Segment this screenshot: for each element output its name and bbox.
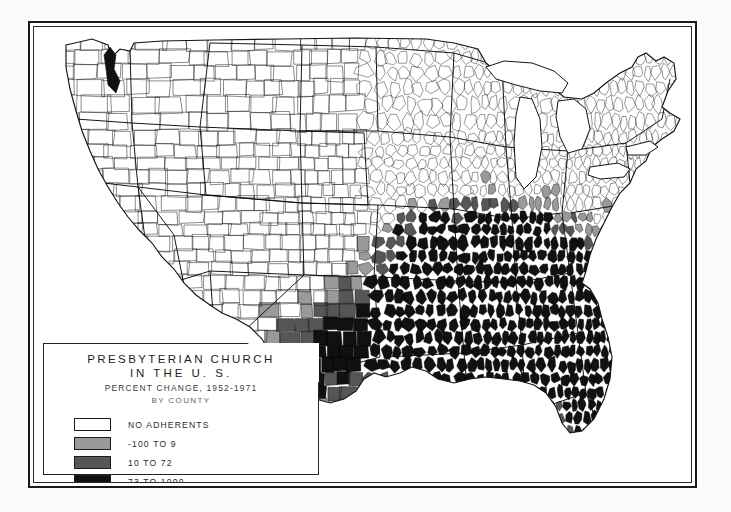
county-boundary	[645, 439, 651, 451]
county-boundary	[603, 478, 609, 482]
county-area	[338, 318, 354, 331]
county-boundary	[685, 426, 691, 437]
county-boundary	[674, 346, 682, 357]
county-area	[558, 466, 565, 480]
county-area	[443, 467, 454, 477]
county-boundary	[47, 223, 70, 235]
county-area	[558, 437, 564, 451]
legend-subtitle: PERCENT CHANGE, 1952-1971	[43, 382, 319, 395]
county-area	[343, 332, 356, 346]
county-area	[542, 451, 552, 465]
county-area	[181, 304, 201, 318]
county-boundary	[663, 412, 671, 425]
county-area	[529, 265, 540, 276]
county-area	[654, 358, 661, 372]
county-area	[471, 439, 480, 453]
county-area	[131, 113, 161, 130]
county-area	[666, 374, 673, 386]
county-area	[105, 34, 135, 49]
county-area	[406, 453, 417, 465]
county-area	[662, 357, 671, 373]
county-area	[657, 185, 665, 200]
county-area	[34, 97, 55, 115]
county-boundary	[413, 440, 426, 451]
county-area	[619, 261, 626, 273]
county-area	[650, 320, 660, 333]
county-area	[177, 318, 201, 332]
county-area	[496, 303, 505, 319]
county-boundary	[599, 276, 607, 289]
county-boundary	[432, 411, 441, 427]
county-boundary	[670, 411, 676, 425]
county-area	[585, 96, 596, 114]
county-area	[642, 227, 651, 237]
county-area	[518, 440, 526, 455]
county-area	[622, 37, 633, 49]
county-area	[528, 414, 539, 426]
county-area	[519, 289, 531, 305]
county-area	[448, 400, 458, 412]
county-boundary	[636, 212, 645, 223]
county-area	[584, 36, 595, 48]
county-area	[526, 318, 533, 328]
county-boundary	[34, 37, 60, 52]
county-area	[634, 292, 643, 306]
county-boundary	[542, 427, 550, 438]
county-area	[374, 412, 386, 426]
county-boundary	[650, 171, 659, 183]
county-area	[638, 233, 647, 248]
county-boundary	[690, 159, 691, 170]
county-boundary	[617, 303, 626, 317]
county-boundary	[588, 477, 595, 482]
county-area	[89, 305, 113, 319]
county-area	[678, 262, 686, 274]
county-boundary	[471, 439, 480, 453]
county-area	[315, 249, 330, 262]
county-boundary	[126, 236, 148, 251]
county-area	[395, 335, 405, 347]
county-area	[135, 130, 158, 145]
county-boundary	[335, 478, 352, 482]
county-boundary	[656, 464, 665, 476]
county-area	[505, 304, 514, 316]
county-boundary	[685, 263, 691, 276]
county-boundary	[690, 34, 691, 51]
county-boundary	[631, 384, 639, 399]
county-boundary	[117, 276, 144, 290]
county-boundary	[634, 39, 643, 52]
county-area	[488, 184, 495, 194]
county-area	[443, 331, 453, 345]
county-boundary	[34, 27, 48, 35]
county-area	[417, 452, 426, 464]
county-boundary	[403, 425, 411, 437]
county-area	[656, 304, 665, 317]
county-area	[403, 425, 411, 437]
county-area	[407, 27, 422, 39]
county-area	[661, 290, 668, 306]
county-area	[682, 347, 689, 359]
county-area	[315, 158, 328, 170]
county-boundary	[654, 199, 662, 213]
county-area	[93, 212, 116, 224]
county-boundary	[330, 424, 343, 437]
county-area	[434, 424, 442, 438]
county-area	[196, 249, 214, 262]
county-area	[202, 195, 220, 210]
county-area	[650, 275, 656, 288]
county-area	[520, 466, 530, 479]
county-boundary	[576, 63, 585, 78]
county-area	[623, 252, 633, 263]
county-boundary	[686, 411, 691, 423]
county-area	[647, 400, 657, 412]
county-area	[570, 331, 576, 344]
county-area	[485, 358, 492, 374]
county-boundary	[665, 346, 672, 360]
county-boundary	[624, 329, 632, 344]
county-boundary	[651, 222, 661, 236]
county-area	[532, 27, 539, 33]
county-area	[601, 235, 608, 250]
county-boundary	[606, 37, 615, 51]
county-boundary	[451, 410, 463, 425]
county-boundary	[617, 224, 624, 233]
county-boundary	[422, 27, 434, 34]
